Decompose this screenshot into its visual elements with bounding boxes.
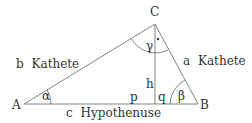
segment-q-label: q <box>158 90 166 104</box>
side-b-letter: b <box>16 57 24 71</box>
side-a-label: a Kathete <box>183 54 246 68</box>
triangle-diagram: C A B α β γ b Kathete a Kathete c Hypoth… <box>0 0 252 123</box>
side-c-label: c Hypothenuse <box>66 106 161 120</box>
angle-beta-label: β <box>178 89 185 103</box>
side-a-letter: a <box>183 54 190 68</box>
vertex-c-label: C <box>150 5 159 19</box>
side-c-name: Hypothenuse <box>81 106 162 120</box>
angle-gamma-label: γ <box>146 39 153 53</box>
side-a-name: Kathete <box>198 54 246 68</box>
side-b-name: Kathete <box>32 57 80 71</box>
altitude-h-label: h <box>146 77 154 91</box>
vertex-b-label: B <box>200 98 209 112</box>
vertex-a-label: A <box>11 98 21 112</box>
side-b-label: b Kathete <box>16 57 79 71</box>
right-angle-dot <box>157 38 159 40</box>
side-c-letter: c <box>66 106 73 120</box>
angle-alpha-label: α <box>42 89 50 103</box>
segment-p-label: p <box>130 90 138 104</box>
